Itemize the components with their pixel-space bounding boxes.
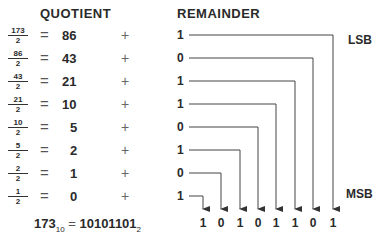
binary-bit: 1 (327, 216, 339, 230)
decimal-base: 10 (56, 225, 65, 234)
binary-value: 10101101 (79, 216, 136, 231)
decimal-value: 173 (34, 216, 56, 231)
msb-label: MSB (346, 187, 373, 201)
connector-lines (0, 0, 380, 240)
binary-base: 2 (137, 225, 141, 234)
lsb-label: LSB (348, 33, 372, 47)
equals-sign: = (68, 216, 76, 231)
binary-bit: 0 (307, 216, 319, 230)
binary-bit: 0 (215, 216, 227, 230)
binary-bit: 1 (197, 216, 209, 230)
binary-bit: 0 (252, 216, 264, 230)
binary-bit: 1 (234, 216, 246, 230)
result-equation: 17310 = 101011012 (34, 216, 141, 234)
binary-bit: 1 (270, 216, 282, 230)
binary-bit: 1 (289, 216, 301, 230)
